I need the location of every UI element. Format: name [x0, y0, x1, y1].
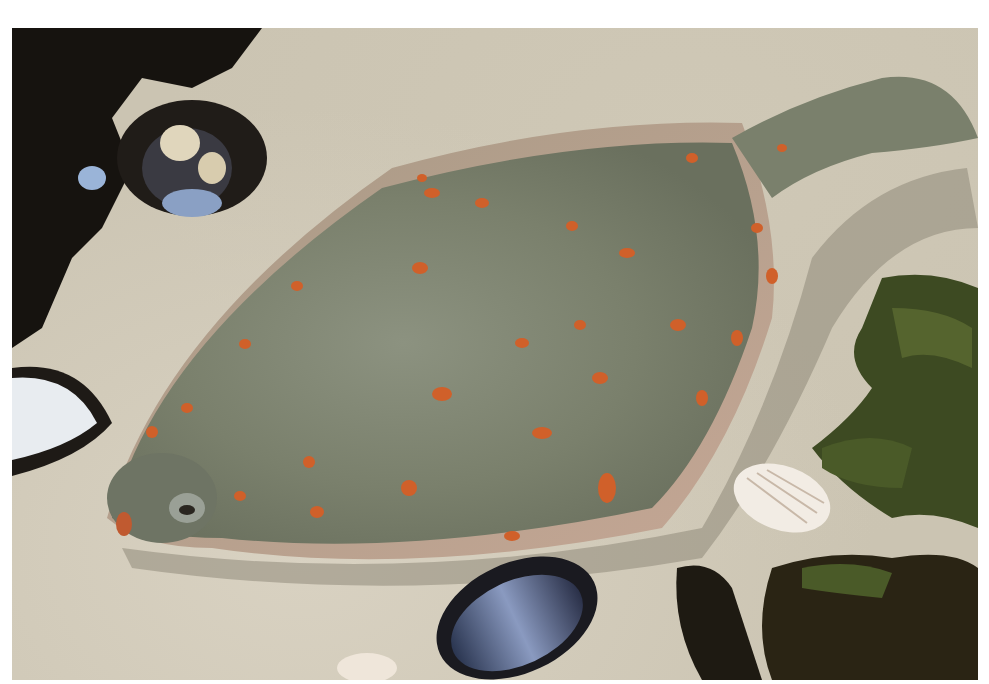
- photo: [12, 28, 978, 680]
- dark-rocks: [12, 28, 267, 348]
- small-shell: [337, 653, 397, 680]
- scene: [12, 28, 978, 680]
- clam-shell-left: [12, 367, 112, 476]
- fish-mouth: [116, 512, 132, 536]
